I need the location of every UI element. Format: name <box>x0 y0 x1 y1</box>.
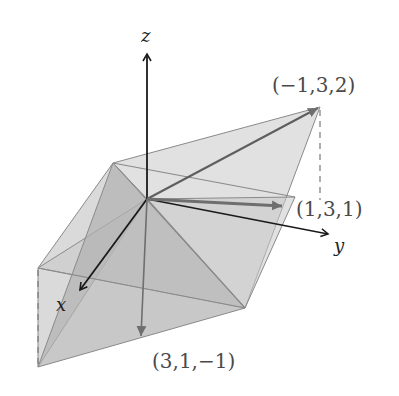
vector-label-neg1-3-2: (−1,3,2) <box>272 73 355 97</box>
y-axis-label: y <box>333 235 345 256</box>
z-axis-label: z <box>140 25 151 46</box>
x-axis-label: x <box>56 294 66 315</box>
diagram-canvas: z y x (−1,3,2) (1,3,1) (3,1,−1) <box>0 0 399 396</box>
vector-label-1-3-1: (1,3,1) <box>296 197 363 221</box>
vector-label-3-1-neg1: (3,1,−1) <box>152 349 235 373</box>
